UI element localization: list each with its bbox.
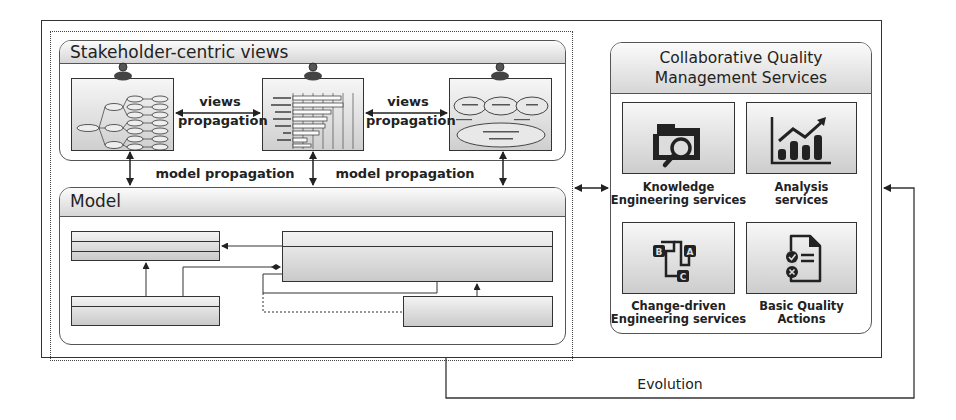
change-driven-label: Change-driven Engineering services	[610, 300, 747, 326]
tree-diagram-icon	[72, 79, 175, 152]
svg-text:C: C	[680, 272, 687, 282]
uml-class-bottom-left	[71, 296, 220, 326]
stakeholder-avatar-icon	[112, 62, 134, 80]
services-title: Collaborative Quality Management Service…	[611, 48, 871, 88]
view-model-composition	[449, 78, 552, 151]
uml-class-top-left	[71, 231, 220, 261]
knowledge-engineering-label: Knowledge Engineering services	[610, 181, 747, 207]
views-propagation-label-1: views propagation	[178, 94, 262, 128]
basic-quality-actions-service[interactable]	[746, 222, 857, 294]
change-driven-engineering-service[interactable]: B A C	[622, 222, 735, 294]
panel-header: Model	[60, 188, 565, 217]
model-composition-icon	[450, 79, 553, 152]
views-propagation-label-2: views propagation	[366, 94, 450, 128]
svg-text:B: B	[656, 247, 663, 257]
model-propagation-label-1: model propagation	[150, 166, 300, 181]
analysis-services-label: Analysis services	[740, 181, 863, 207]
panel-header: Collaborative Quality Management Service…	[611, 43, 871, 94]
panel-title: Model	[70, 191, 121, 211]
uml-class-bottom-right	[403, 296, 553, 327]
panel-title: Stakeholder-centric views	[70, 42, 288, 62]
analysis-service[interactable]	[746, 102, 857, 174]
model-propagation-label-2: model propagation	[330, 166, 480, 181]
evolution-label: Evolution	[620, 376, 720, 392]
basic-quality-actions-label: Basic Quality Actions	[740, 300, 863, 326]
view-tree	[71, 78, 174, 151]
stakeholder-avatar-icon	[302, 62, 324, 80]
chart-growth-icon	[747, 103, 858, 175]
view-timeline-chart	[262, 78, 364, 151]
abc-flow-icon: B A C	[623, 223, 736, 295]
uml-class-right-large	[282, 231, 553, 282]
folder-search-icon	[623, 103, 736, 175]
stakeholder-avatar-icon	[489, 62, 511, 80]
svg-text:A: A	[687, 247, 694, 257]
timeline-chart-icon	[263, 79, 365, 152]
panel-header: Stakeholder-centric views	[60, 41, 565, 64]
knowledge-engineering-service[interactable]	[622, 102, 735, 174]
checklist-document-icon	[747, 223, 858, 295]
